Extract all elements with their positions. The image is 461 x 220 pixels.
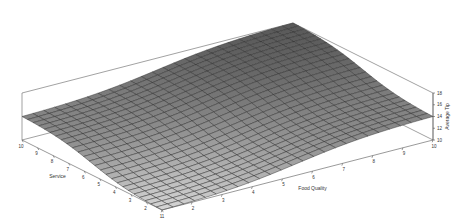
service-tick-label: 7 bbox=[66, 167, 69, 172]
food-quality-tick-label: 10 bbox=[431, 144, 437, 149]
food-quality-tick-label: 5 bbox=[282, 182, 285, 187]
service-axis-label: Service bbox=[49, 173, 66, 179]
food-quality-tick-label: 8 bbox=[373, 159, 376, 164]
service-tick-label: 2 bbox=[144, 206, 147, 211]
food-quality-tick-label: 2 bbox=[192, 206, 195, 211]
average-tip-tick-label: 14 bbox=[437, 114, 443, 119]
average-tip-axis-label: Average Tip bbox=[444, 103, 450, 130]
food-quality-tick-label: 1 bbox=[162, 214, 165, 219]
average-tip-tick-label: 12 bbox=[437, 126, 443, 131]
service-tick-label: 6 bbox=[82, 175, 85, 180]
service-tick-label: 3 bbox=[129, 198, 132, 203]
food-quality-tick-label: 9 bbox=[403, 151, 406, 156]
surface-mesh bbox=[22, 23, 433, 210]
service-tick-label: 8 bbox=[51, 159, 54, 164]
service-tick-label: 5 bbox=[98, 182, 101, 187]
average-tip-axis: 1012141618 bbox=[433, 91, 443, 143]
average-tip-tick-label: 10 bbox=[437, 138, 443, 143]
service-tick-label: 10 bbox=[18, 144, 24, 149]
service-tick-label: 9 bbox=[35, 151, 38, 156]
average-tip-tick-label: 18 bbox=[437, 91, 443, 96]
food-quality-tick-label: 4 bbox=[252, 190, 255, 195]
food-quality-tick-label: 6 bbox=[312, 175, 315, 180]
food-quality-tick-label: 3 bbox=[222, 198, 225, 203]
food-quality-axis-label: Food Quality bbox=[298, 185, 327, 191]
food-quality-tick-label: 7 bbox=[342, 167, 345, 172]
service-tick-label: 4 bbox=[113, 190, 116, 195]
surface-plot: 12345678910 12345678910 1012141618 Servi… bbox=[0, 0, 461, 220]
average-tip-tick-label: 16 bbox=[437, 102, 443, 107]
